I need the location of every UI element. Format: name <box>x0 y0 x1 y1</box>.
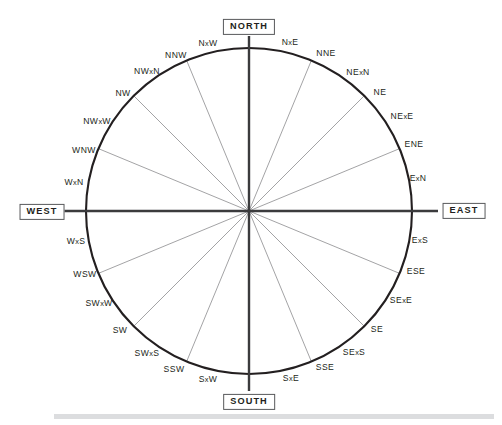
cardinal-label-east: EAST <box>443 203 486 219</box>
compass-ray-nne <box>249 60 311 211</box>
compass-ray-sw <box>134 211 249 326</box>
compass-ray-sse <box>249 211 311 362</box>
cardinal-label-north: NORTH <box>223 19 275 35</box>
compass-rose-figure: NxENNENExNNENExEENEExNExSESESExESESExSSS… <box>0 0 502 425</box>
compass-ray-wnw <box>98 149 249 211</box>
cardinal-label-west: WEST <box>20 204 65 220</box>
compass-ray-nnw <box>187 60 249 211</box>
cardinal-label-south: SOUTH <box>223 394 275 410</box>
compass-ray-ne <box>249 96 364 211</box>
compass-ray-wsw <box>98 211 249 273</box>
compass-ray-ese <box>249 211 400 273</box>
bottom-rule <box>54 414 494 419</box>
compass-diagram <box>0 0 502 425</box>
compass-ray-nw <box>134 96 249 211</box>
compass-ray-ssw <box>187 211 249 362</box>
compass-ray-ene <box>249 149 400 211</box>
compass-ray-se <box>249 211 364 326</box>
